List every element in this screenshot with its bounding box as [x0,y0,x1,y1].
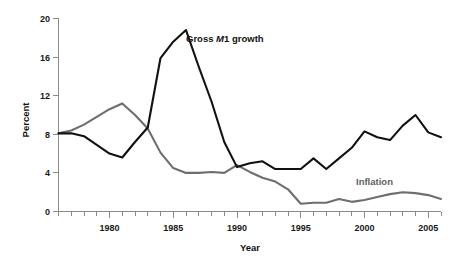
series-line-gross-m1-growth [59,30,442,169]
y-tick-label: 16 [40,53,50,63]
x-tick-label: 2000 [354,223,374,233]
y-tick-label: 12 [40,91,50,101]
series-line-inflation [59,103,442,203]
x-axis-tick-labels: 198019851990199520002005 [99,223,438,233]
line-chart: 20 16 12 8 4 0 Percent 19801985199019952… [0,0,454,269]
y-axis-tick-labels: 20 16 12 8 4 0 [40,14,50,217]
y-tick-label: 4 [45,168,50,178]
y-axis-title: Percent [20,102,31,138]
x-tick-label: 1985 [163,223,183,233]
x-tick-label: 2005 [418,223,438,233]
x-tick-label: 1990 [227,223,247,233]
x-axis-title: Year [240,242,260,253]
chart-figure: 20 16 12 8 4 0 Percent 19801985199019952… [0,0,454,269]
y-axis-ticks [53,19,59,212]
x-axis-minor-ticks [59,212,442,218]
x-tick-label: 1980 [99,223,119,233]
y-tick-label: 20 [40,14,50,24]
annotation-inflation: Inflation [356,176,393,187]
y-tick-label: 0 [45,207,50,217]
x-tick-label: 1995 [291,223,311,233]
annotation-gross-m1-growth: Gross M1 growth [186,33,264,44]
y-tick-label: 8 [45,130,50,140]
